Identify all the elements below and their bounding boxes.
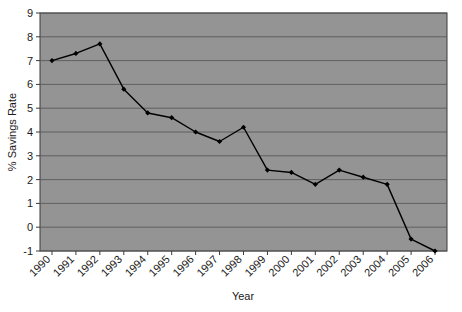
y-tick-label-5: 5 <box>27 102 33 114</box>
x-axis-title: Year <box>232 290 255 302</box>
y-tick-label-9: 9 <box>27 7 33 19</box>
y-tick-label-1: 1 <box>27 197 33 209</box>
y-tick-label--1: -1 <box>23 245 33 257</box>
y-tick-label-4: 4 <box>27 126 33 138</box>
y-tick-label-3: 3 <box>27 150 33 162</box>
y-axis-title: % Savings Rate <box>6 93 18 171</box>
y-tick-label-6: 6 <box>27 78 33 90</box>
y-tick-label-0: 0 <box>27 221 33 233</box>
y-tick-label-8: 8 <box>27 31 33 43</box>
y-tick-label-7: 7 <box>27 55 33 67</box>
y-tick-label-2: 2 <box>27 174 33 186</box>
chart-canvas: 9876543210-1 199019911992199319941995199… <box>0 0 462 312</box>
savings-rate-line-chart: 9876543210-1 199019911992199319941995199… <box>0 0 462 312</box>
